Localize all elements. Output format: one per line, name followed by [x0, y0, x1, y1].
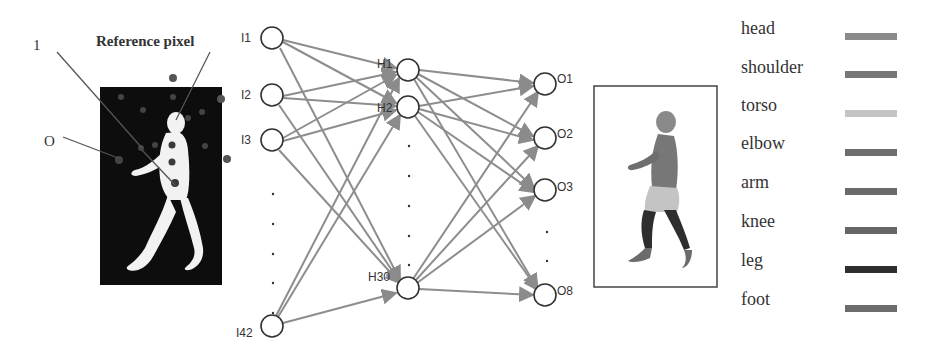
input-depth-image: [100, 74, 231, 285]
node-label-i42: I42: [236, 326, 253, 340]
legend-swatch-torso: [845, 110, 897, 117]
node-label-o8: O8: [557, 284, 573, 298]
legend-label-arm: arm: [741, 172, 769, 193]
node-label-o1: O1: [557, 72, 573, 86]
legend-label-torso: torso: [741, 95, 777, 116]
network-diagram: [0, 0, 940, 359]
legend-swatch-elbow: [845, 149, 897, 156]
legend-label-leg: leg: [741, 250, 763, 271]
annotation-one: 1: [33, 37, 41, 54]
node-label-h2: H2: [377, 101, 392, 115]
annotation-o: O: [44, 133, 55, 150]
legend-label-head: head: [741, 18, 775, 39]
legend-swatch-knee: [845, 227, 897, 234]
legend-label-elbow: elbow: [741, 133, 785, 154]
legend-label-foot: foot: [741, 289, 770, 310]
legend-swatch-leg: [845, 266, 897, 273]
node-label-i2: I2: [241, 88, 251, 102]
legend-swatch-arm: [845, 188, 897, 195]
node-label-i1: I1: [241, 31, 251, 45]
annotation-reference-pixel: Reference pixel: [96, 33, 194, 50]
legend-swatch-foot: [845, 305, 897, 312]
network-nodes: [261, 27, 556, 337]
node-label-o3: O3: [557, 180, 573, 194]
node-label-o2: O2: [557, 127, 573, 141]
legend-label-knee: knee: [741, 211, 775, 232]
node-label-i3: I3: [241, 133, 251, 147]
legend-label-shoulder: shoulder: [741, 57, 803, 78]
legend-swatch-head: [845, 33, 897, 40]
segmented-output-image: [594, 86, 717, 287]
node-label-h30: H30: [368, 270, 390, 284]
edges-hidden-output: [413, 70, 538, 295]
node-label-h1: H1: [377, 57, 392, 71]
legend-swatch-shoulder: [845, 71, 897, 78]
